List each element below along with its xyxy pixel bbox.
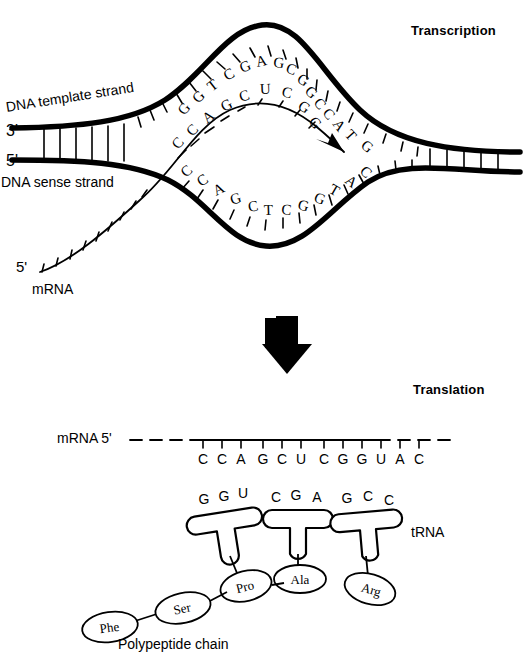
diagram-canvas: G G T C G A G C G G C C A [0, 0, 528, 660]
svg-text:C: C [217, 451, 227, 467]
svg-text:G: G [219, 488, 230, 504]
svg-text:C: C [177, 162, 195, 181]
svg-text:C: C [247, 197, 260, 214]
svg-text:C: C [280, 83, 294, 101]
svg-text:G: G [296, 196, 311, 214]
trna-2: C G A Ala [263, 487, 333, 593]
svg-text:C: C [183, 121, 201, 139]
svg-text:C: C [194, 171, 211, 190]
svg-text:Ala: Ala [291, 572, 310, 587]
svg-text:C: C [319, 451, 329, 467]
svg-text:G: G [258, 451, 269, 467]
translation-mrna-label: mRNA 5' [57, 430, 112, 446]
mrna-label: mRNA [32, 281, 73, 297]
svg-text:G: G [237, 57, 253, 76]
svg-text:G: G [199, 491, 210, 507]
svg-text:U: U [260, 81, 272, 97]
dna-basepair-rungs-left [44, 124, 124, 161]
mrna-tail-ticks [42, 190, 147, 272]
svg-text:G: G [342, 490, 353, 506]
svg-text:G: G [358, 137, 377, 156]
translation-title: Translation [413, 382, 485, 397]
svg-text:U: U [238, 485, 248, 501]
svg-text:G: G [174, 99, 193, 118]
svg-text:C: C [384, 492, 394, 508]
svg-text:G: G [189, 87, 208, 106]
sense-strand-bases: C C A G C T C G G T A C [177, 162, 375, 230]
svg-text:C: C [271, 489, 281, 505]
mrna-5prime-label: 5' [16, 258, 27, 275]
svg-text:G: G [357, 451, 368, 467]
svg-text:C: C [363, 488, 373, 504]
svg-text:U: U [376, 451, 386, 467]
process-flow-arrow [262, 316, 312, 374]
svg-text:Phe: Phe [99, 619, 121, 637]
mrna-growth-arrowhead [316, 133, 344, 152]
svg-text:C: C [237, 87, 251, 105]
svg-text:C: C [168, 134, 187, 152]
polypeptide-chain-caption: Polypeptide chain [118, 636, 229, 652]
svg-text:A: A [330, 116, 349, 135]
trna-caption: tRNA [411, 524, 444, 540]
svg-text:A: A [210, 179, 227, 198]
svg-text:A: A [199, 107, 218, 126]
svg-text:U: U [296, 451, 306, 467]
translation-mrna-bases: C C A G C U C G G U A C [198, 440, 424, 467]
svg-text:C: C [414, 451, 424, 467]
svg-text:A: A [312, 489, 322, 505]
svg-text:G: G [228, 189, 243, 208]
transcription-title: Transcription [411, 23, 496, 38]
svg-text:G: G [291, 487, 302, 503]
dna-sense-strand-label: DNA sense strand [1, 174, 114, 190]
sense-strand-5prime-label: 5' [6, 152, 18, 170]
svg-text:C: C [221, 65, 238, 84]
svg-text:A: A [254, 52, 268, 70]
svg-text:C: C [281, 201, 293, 218]
svg-text:T: T [264, 202, 274, 218]
svg-text:C: C [277, 451, 287, 467]
svg-text:A: A [236, 451, 246, 467]
trna-3: G C C Arg [330, 488, 406, 611]
svg-text:G: G [218, 95, 235, 114]
svg-text:A: A [395, 451, 405, 467]
svg-text:C: C [198, 451, 208, 467]
svg-text:T: T [204, 76, 221, 94]
svg-text:T: T [342, 126, 360, 144]
svg-text:G: G [273, 54, 286, 71]
template-strand-3prime-label: 3' [6, 122, 18, 140]
trna-1: G G U Pro [185, 485, 274, 607]
svg-text:G: G [338, 451, 349, 467]
